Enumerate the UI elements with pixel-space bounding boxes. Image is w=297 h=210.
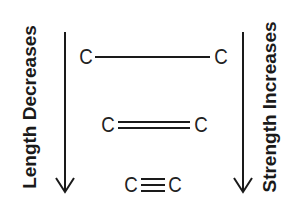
left-down-arrow-icon [56, 32, 74, 192]
triple-bond-atom-right: C [168, 174, 182, 196]
double-bond-atom-left: C [101, 114, 115, 136]
triple-bond-atom-left: C [124, 174, 138, 196]
right-down-arrow-icon [234, 32, 252, 192]
double-bond-lines [118, 122, 190, 128]
diagram-lines [0, 0, 297, 210]
triple-bond-lines [141, 179, 165, 191]
single-bond-atom-right: C [214, 46, 228, 68]
double-bond-atom-right: C [194, 114, 208, 136]
single-bond-atom-left: C [79, 46, 93, 68]
